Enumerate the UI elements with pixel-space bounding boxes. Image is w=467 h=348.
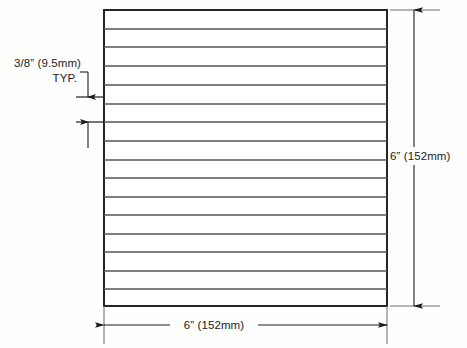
overall-width-dimension — [104, 306, 387, 344]
width-dimension-label: 6” (152mm) — [184, 319, 244, 331]
technical-drawing-canvas: 3/8” (9.5mm) TYP. 6” (152mm) 6” (152mm) — [0, 0, 467, 348]
ruled-panel-outline — [104, 10, 387, 306]
spacing-dimension-label: 3/8” (9.5mm) — [14, 57, 81, 69]
height-dimension-label: 6” (152mm) — [390, 150, 450, 162]
spacing-typ-label: TYP. — [53, 72, 77, 84]
spacing-extension-lines — [76, 97, 104, 122]
line-spacing-dimension — [80, 72, 88, 148]
drawing-svg: 3/8” (9.5mm) TYP. 6” (152mm) 6” (152mm) — [0, 0, 467, 348]
